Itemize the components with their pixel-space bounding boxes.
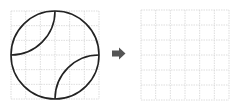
right-grid — [141, 10, 229, 100]
right-arrow-icon — [112, 48, 126, 60]
diagram-canvas — [0, 0, 236, 107]
